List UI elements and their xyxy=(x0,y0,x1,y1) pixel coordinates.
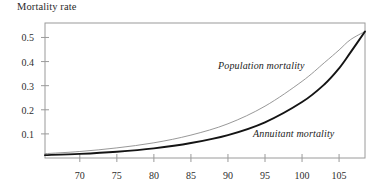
annuitant-mortality-label: Annuitant mortality xyxy=(253,128,334,139)
y-tick-label: 0.4 xyxy=(0,56,34,67)
population-mortality-label: Population mortality xyxy=(218,60,305,71)
y-tick-label: 0.5 xyxy=(0,32,34,43)
y-tick-label: 0.3 xyxy=(0,80,34,91)
y-tick-label: 0.2 xyxy=(0,104,34,115)
x-tick-label: 90 xyxy=(223,170,233,181)
chart-screenshot: Mortality rate 0.10.20.30.40.5 707580859… xyxy=(0,0,379,193)
x-tick-label: 100 xyxy=(295,170,310,181)
x-tick-label: 80 xyxy=(149,170,159,181)
x-tick-label: 105 xyxy=(332,170,347,181)
x-tick-label: 75 xyxy=(112,170,122,181)
mortality-rate-line-chart xyxy=(0,0,379,193)
y-tick-label: 0.1 xyxy=(0,128,34,139)
x-tick-label: 95 xyxy=(260,170,270,181)
x-tick-label: 85 xyxy=(186,170,196,181)
x-tick-label: 70 xyxy=(75,170,85,181)
